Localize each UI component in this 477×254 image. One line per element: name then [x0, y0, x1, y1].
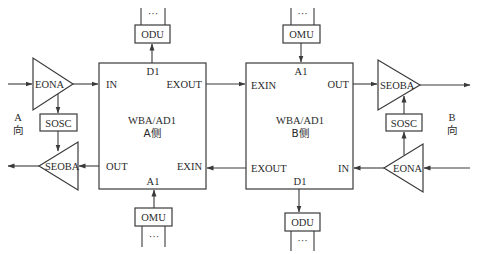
b-port-d1: D1 [294, 176, 307, 187]
b-direction-letter: B [448, 112, 455, 123]
omu-bottom-group: OMU ··· [135, 190, 172, 247]
a-direction-group: EONA SOSC SEOBA A 向 [8, 58, 99, 190]
b-port-in: IN [338, 163, 349, 174]
odu-top-group: ODU ··· [135, 8, 170, 63]
b-direction-group: SEOBA SOSC EONA B 向 [353, 60, 470, 192]
a-block-subtitle: A侧 [143, 127, 160, 139]
omu-top-label: OMU [289, 29, 314, 40]
right-eona-label: EONA [393, 163, 423, 174]
b-block-title: WBA/AD1 [276, 115, 324, 126]
left-seoba-label: SEOBA [45, 161, 80, 172]
odu-bottom-label: ODU [291, 217, 314, 228]
odu-bottom-group: ODU ··· [285, 189, 320, 251]
a-block-title: WBA/AD1 [128, 115, 176, 126]
a-port-d1: D1 [147, 66, 160, 77]
b-port-exin: EXIN [251, 80, 276, 91]
b-direction-char: 向 [447, 124, 457, 136]
a-direction-letter: A [14, 112, 22, 123]
left-sosc-label: SOSC [45, 118, 71, 129]
wba-ad1-a-side-block: D1 IN EXOUT WBA/AD1 A侧 OUT EXIN A1 [99, 63, 206, 189]
b-block-subtitle: B侧 [291, 127, 308, 139]
a-direction-char: 向 [13, 124, 23, 136]
omu-bottom-label: OMU [141, 212, 166, 223]
wba-ad1-diagram: EONA SOSC SEOBA A 向 D1 IN EXOUT WBA/AD1 … [0, 0, 477, 254]
a-port-exin: EXIN [177, 161, 202, 172]
b-port-a1: A1 [295, 66, 308, 77]
a-port-in: IN [106, 79, 117, 90]
a-port-out: OUT [106, 161, 128, 172]
a-port-a1: A1 [147, 176, 160, 187]
omu-top-ellipsis: ··· [297, 8, 308, 19]
left-eona-label: EONA [35, 79, 65, 90]
a-port-exout: EXOUT [166, 79, 202, 90]
odu-top-label: ODU [141, 29, 164, 40]
odu-bottom-ellipsis: ··· [297, 235, 308, 246]
omu-top-group: OMU ··· [283, 8, 320, 62]
wba-ad1-b-side-block: A1 EXIN OUT WBA/AD1 B侧 EXOUT IN D1 [246, 63, 353, 189]
omu-bottom-ellipsis: ··· [149, 231, 160, 242]
right-sosc-label: SOSC [391, 118, 417, 129]
odu-top-ellipsis: ··· [148, 8, 159, 19]
b-port-out: OUT [327, 79, 349, 90]
right-seoba-label: SEOBA [380, 80, 415, 91]
b-port-exout: EXOUT [251, 163, 287, 174]
